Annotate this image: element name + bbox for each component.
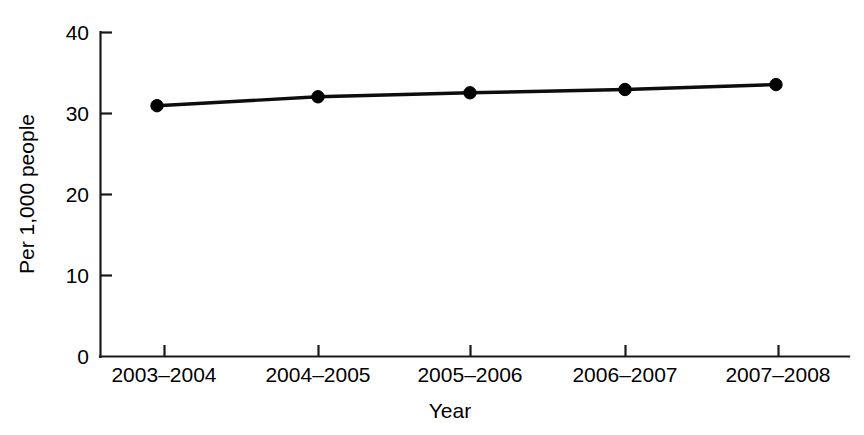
data-point-4 <box>770 78 782 90</box>
data-point-1 <box>312 91 324 103</box>
y-tick-label-30: 30 <box>66 102 89 125</box>
y-axis-title: Per 1,000 people <box>15 114 38 274</box>
y-tick-label-10: 10 <box>66 264 89 287</box>
chart-figure: 40 30 20 10 0 Per 1,000 people 2003–2004… <box>0 0 864 435</box>
x-tick-label-2: 2005–2006 <box>417 363 522 386</box>
y-tick-label-40: 40 <box>66 21 89 44</box>
data-point-3 <box>619 83 631 95</box>
y-tick-label-0: 0 <box>77 345 89 368</box>
data-point-0 <box>151 100 163 112</box>
line-chart: 40 30 20 10 0 Per 1,000 people 2003–2004… <box>0 0 864 435</box>
x-tick-label-4: 2007–2008 <box>725 363 830 386</box>
x-axis-title: Year <box>429 399 471 422</box>
x-tick-label-3: 2006–2007 <box>572 363 677 386</box>
x-tick-label-1: 2004–2005 <box>265 363 370 386</box>
x-tick-label-0: 2003–2004 <box>111 363 216 386</box>
data-point-2 <box>464 87 476 99</box>
y-tick-label-20: 20 <box>66 183 89 206</box>
